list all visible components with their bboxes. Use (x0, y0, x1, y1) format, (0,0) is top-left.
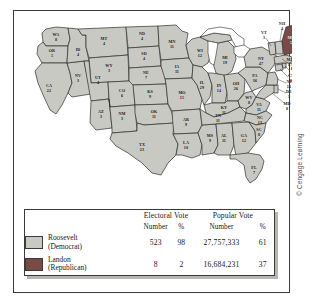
subheader-electoral-number: Number (140, 222, 171, 232)
legend-corner-blank-2 (25, 222, 140, 232)
state-label-sd-votes: 4 (143, 56, 145, 61)
state-label-ms-votes: 9 (209, 138, 211, 143)
state-label-ok-votes: 11 (152, 114, 156, 119)
roosevelt-popular-number: 27,757,333 (192, 232, 252, 254)
state-label-wa-votes: 8 (55, 37, 57, 42)
candidate-name-roosevelt: Roosevelt (Democrat) (48, 234, 82, 251)
table-subheader-row: Number % Number % (25, 222, 274, 232)
state-de[interactable] (274, 85, 278, 93)
roosevelt-popular-pct: 61 (251, 232, 274, 254)
state-label-ar-votes: 9 (185, 122, 187, 127)
table-row: Roosevelt (Democrat) 523 98 27,757,333 6… (25, 232, 274, 254)
roosevelt-electoral-number: 523 (140, 232, 171, 254)
state-label-ne-votes: 7 (145, 75, 147, 80)
state-ne[interactable] (129, 66, 166, 85)
state-label-fl-votes: 7 (253, 170, 255, 175)
state-label-la-votes: 10 (184, 145, 188, 150)
us-electoral-map: WA 8 OR 5 CA 22 NV 3 ID 4 MT 4 WY 3 UT 4… (16, 13, 292, 203)
state-label-pa-votes: 36 (253, 78, 257, 83)
subheader-popular-number: Number (192, 222, 252, 232)
state-label-de-votes: 3 (288, 94, 290, 99)
party-label: (Democrat) (48, 242, 82, 251)
state-label-il-votes: 29 (200, 85, 204, 90)
state-label-co-votes: 6 (121, 93, 123, 98)
state-label-ky-votes: 11 (222, 110, 226, 115)
state-label-id-votes: 4 (77, 52, 79, 57)
state-label-me-votes: 5 (290, 40, 292, 45)
state-label-wv-votes: 8 (248, 100, 250, 105)
landon-electoral-number: 8 (140, 253, 171, 275)
state-label-ut-votes: 4 (97, 80, 99, 85)
state-label-nm-votes: 3 (121, 116, 123, 121)
header-electoral-vote: Electoral Vote (140, 210, 191, 222)
landon-electoral-pct: 2 (171, 253, 192, 275)
header-popular-vote: Popular Vote (192, 210, 274, 222)
state-label-nd-votes: 4 (141, 36, 143, 41)
state-label-va-votes: 11 (257, 107, 261, 112)
state-label-tn-votes: 11 (216, 118, 220, 123)
results-table: Electoral Vote Popular Vote Number % Num… (25, 210, 274, 275)
state-label-wy-votes: 3 (108, 68, 110, 73)
table-header-group-row: Electoral Vote Popular Vote (25, 210, 274, 222)
state-label-sc-votes: 8 (258, 132, 260, 137)
state-label-tx-votes: 23 (140, 147, 144, 152)
election-map-figure: WA 8 OR 5 CA 22 NV 3 ID 4 MT 4 WY 3 UT 4… (0, 0, 314, 304)
state-nh[interactable] (275, 41, 283, 54)
subheader-electoral-pct: % (171, 222, 192, 232)
party-label: (Republican) (48, 263, 87, 272)
legend-results-table: Electoral Vote Popular Vote Number % Num… (24, 209, 275, 276)
state-label-ga-votes: 12 (242, 138, 246, 143)
legend-corner-blank (25, 210, 140, 222)
state-label-ks-votes: 9 (149, 94, 151, 99)
state-ca[interactable] (35, 63, 72, 114)
state-label-nh-votes: 4 (281, 26, 283, 31)
leader-nj (277, 79, 286, 83)
state-label-mt-votes: 4 (103, 41, 105, 46)
table-row: Landon (Republican) 8 2 16,684,231 37 (25, 253, 274, 275)
state-ri[interactable] (282, 63, 286, 68)
legend-swatch-democrat (25, 236, 43, 249)
state-label-mn-votes: 11 (170, 44, 174, 49)
state-label-nv-votes: 3 (77, 78, 79, 83)
state-label-wi-votes: 12 (198, 53, 202, 58)
state-label-vt-votes: 3 (263, 35, 265, 40)
state-label-ia-votes: 11 (175, 69, 179, 74)
copyright-credit: © Cengage Learning (296, 112, 303, 196)
leader-de (278, 89, 286, 93)
leader-md (272, 93, 284, 103)
state-label-mi-votes: 19 (223, 60, 227, 65)
state-label-mo-votes: 15 (180, 95, 184, 100)
state-label-ny-votes: 47 (259, 61, 263, 66)
state-label-in-votes: 14 (217, 88, 221, 93)
state-label-nc-votes: 13 (258, 120, 262, 125)
leader-ct (280, 69, 288, 77)
state-fl[interactable] (230, 153, 264, 183)
state-label-al-votes: 11 (222, 138, 226, 143)
landon-popular-pct: 37 (251, 253, 274, 275)
state-nj[interactable] (266, 72, 278, 85)
state-ct[interactable] (275, 64, 283, 71)
landon-popular-number: 16,684,231 (192, 253, 252, 275)
state-label-or-votes: 5 (51, 53, 53, 58)
legend-swatch-republican (25, 258, 43, 271)
state-label-md-votes: 8 (286, 106, 288, 111)
candidate-cell-roosevelt: Roosevelt (Democrat) (25, 232, 140, 254)
roosevelt-electoral-pct: 98 (171, 232, 192, 254)
candidate-name-landon: Landon (Republican) (48, 256, 87, 273)
candidate-cell-landon: Landon (Republican) (25, 253, 140, 275)
subheader-popular-pct: % (251, 222, 274, 232)
state-label-az-votes: 3 (100, 114, 102, 119)
state-label-ca-votes: 22 (47, 88, 51, 93)
state-label-oh-votes: 26 (234, 86, 238, 91)
